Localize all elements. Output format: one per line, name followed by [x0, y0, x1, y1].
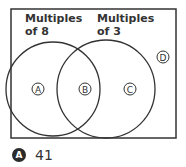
svg-text:D: D	[160, 53, 167, 63]
answer-value: 41	[35, 147, 53, 163]
venn-diagram: A B C D Multiples of 8 Multiples of 3	[0, 0, 186, 140]
set-label-line: Multiples	[25, 12, 82, 25]
region-c-marker: C	[124, 83, 136, 95]
answer-letter-badge: A	[12, 148, 26, 162]
set-label-line: of 8	[25, 25, 82, 38]
set-circle-multiples-of-3	[57, 40, 155, 138]
region-a-marker: A	[32, 83, 44, 95]
svg-text:B: B	[82, 85, 88, 95]
set-label-multiples-of-8: Multiples of 8	[25, 12, 82, 38]
svg-text:A: A	[35, 85, 42, 95]
svg-text:C: C	[127, 85, 133, 95]
set-label-multiples-of-3: Multiples of 3	[97, 12, 154, 38]
set-label-line: of 3	[97, 25, 154, 38]
answer-choice[interactable]: A 41	[12, 147, 53, 163]
region-d-marker: D	[157, 51, 169, 63]
region-b-marker: B	[79, 83, 91, 95]
set-label-line: Multiples	[97, 12, 154, 25]
